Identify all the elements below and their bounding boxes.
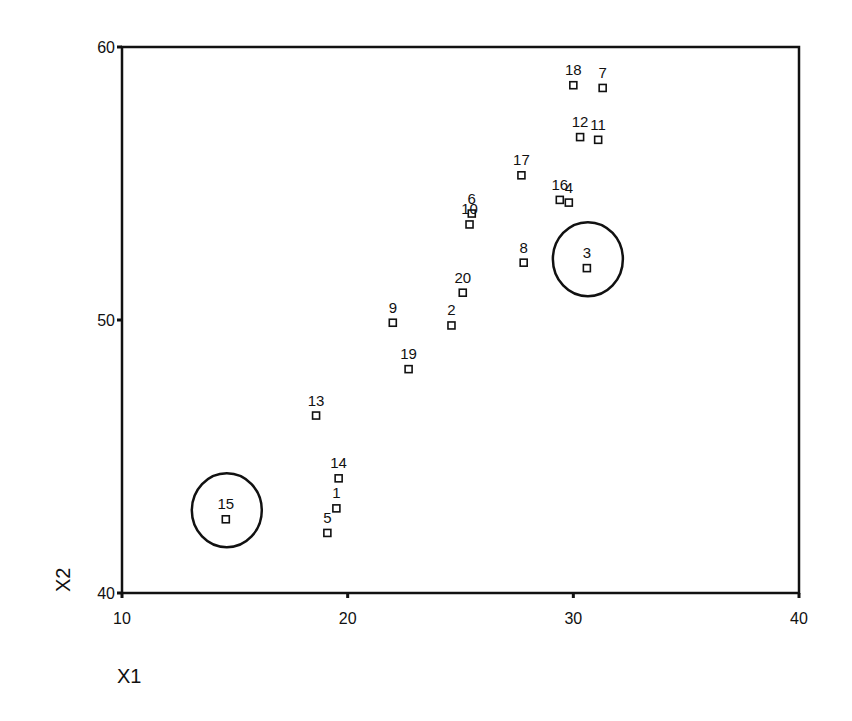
point-label: 16 xyxy=(551,176,568,193)
point-label: 9 xyxy=(389,299,397,316)
y-tick-label: 40 xyxy=(97,585,115,602)
data-point: 13 xyxy=(308,392,325,420)
data-point: 8 xyxy=(520,239,528,267)
point-label: 18 xyxy=(565,61,582,78)
data-point: 14 xyxy=(330,454,347,482)
point-label: 7 xyxy=(598,64,606,81)
point-label: 2 xyxy=(447,301,455,318)
point-label: 10 xyxy=(461,200,478,217)
point-label: 5 xyxy=(323,509,331,526)
square-marker-icon xyxy=(222,516,229,523)
square-marker-icon xyxy=(518,172,525,179)
square-marker-icon xyxy=(324,529,331,536)
point-label: 15 xyxy=(217,495,234,512)
point-label: 3 xyxy=(583,244,591,261)
scatter-chart: 10203040 405060 123456789101112131415161… xyxy=(0,0,852,721)
data-point: 5 xyxy=(323,509,331,537)
square-marker-icon xyxy=(556,196,563,203)
square-marker-icon xyxy=(577,134,584,141)
y-tick-label: 60 xyxy=(97,39,115,56)
point-label: 17 xyxy=(513,151,530,168)
data-point: 12 xyxy=(572,113,589,141)
data-point: 17 xyxy=(513,151,530,179)
point-label: 13 xyxy=(308,392,325,409)
square-marker-icon xyxy=(333,505,340,512)
square-marker-icon xyxy=(459,289,466,296)
point-label: 11 xyxy=(590,116,606,133)
data-point: 20 xyxy=(454,269,471,297)
square-marker-icon xyxy=(565,199,572,206)
annotation-circles xyxy=(192,222,623,547)
data-point: 2 xyxy=(447,301,455,329)
square-marker-icon xyxy=(570,82,577,89)
point-label: 19 xyxy=(400,345,417,362)
x-axis-ticks: 10203040 xyxy=(113,593,808,627)
point-label: 12 xyxy=(572,113,589,130)
data-point: 15 xyxy=(217,495,234,522)
data-point: 3 xyxy=(583,244,591,272)
data-point: 19 xyxy=(400,345,417,373)
data-point: 10 xyxy=(461,200,478,228)
x-tick-label: 20 xyxy=(339,610,357,627)
y-tick-label: 50 xyxy=(97,312,115,329)
data-points: 1234567891011121314151617181920 xyxy=(217,61,606,536)
data-point: 7 xyxy=(598,64,606,92)
point-label: 8 xyxy=(520,239,528,256)
x-tick-label: 10 xyxy=(113,610,131,627)
square-marker-icon xyxy=(595,136,602,143)
square-marker-icon xyxy=(389,319,396,326)
point-label: 20 xyxy=(454,269,471,286)
data-point: 1 xyxy=(332,484,340,512)
x-axis-title: X1 xyxy=(117,665,141,687)
square-marker-icon xyxy=(520,259,527,266)
square-marker-icon xyxy=(448,322,455,329)
square-marker-icon xyxy=(599,84,606,91)
x-tick-label: 40 xyxy=(790,610,808,627)
x-tick-label: 30 xyxy=(564,610,582,627)
square-marker-icon xyxy=(466,221,473,228)
square-marker-icon xyxy=(405,366,412,373)
point-label: 14 xyxy=(330,454,347,471)
square-marker-icon xyxy=(335,475,342,482)
point-label: 1 xyxy=(332,484,340,501)
data-point: 18 xyxy=(565,61,582,89)
data-point: 9 xyxy=(389,299,397,327)
square-marker-icon xyxy=(583,265,590,272)
data-point: 11 xyxy=(590,116,606,144)
y-axis-title: X2 xyxy=(52,568,74,592)
y-axis-ticks: 405060 xyxy=(97,39,122,602)
square-marker-icon xyxy=(313,412,320,419)
